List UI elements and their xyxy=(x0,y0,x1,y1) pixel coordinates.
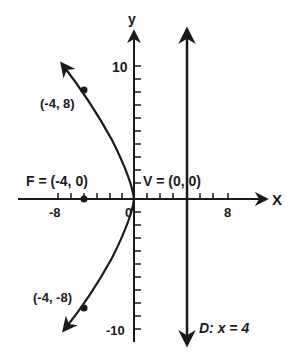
directrix-label: D: x = 4 xyxy=(199,320,249,336)
x-axis-label: X xyxy=(272,191,282,208)
vertex-label: V = (0, 0) xyxy=(143,173,201,189)
focus-label: F = (-4, 0) xyxy=(26,173,88,189)
x-tick-label-0: 0 xyxy=(125,205,132,220)
y-axis-label: y xyxy=(128,11,136,27)
y-axis-ticks xyxy=(134,66,141,329)
point-upper-marker xyxy=(81,87,88,94)
x-axis xyxy=(18,193,266,199)
x-tick-label-neg8: -8 xyxy=(49,205,61,220)
parabola-diagram: y X 10 -10 -8 0 8 (-4, 8) (-4, -8) F = (… xyxy=(0,0,305,358)
point-upper-label: (-4, 8) xyxy=(40,96,75,111)
y-axis xyxy=(134,32,141,342)
point-lower-label: (-4, -8) xyxy=(33,290,72,305)
y-tick-label-10: 10 xyxy=(112,59,128,75)
point-lower-marker xyxy=(81,305,88,312)
focus-marker xyxy=(81,196,88,203)
y-tick-label-neg10: -10 xyxy=(106,323,125,338)
x-tick-label-8: 8 xyxy=(224,205,231,220)
